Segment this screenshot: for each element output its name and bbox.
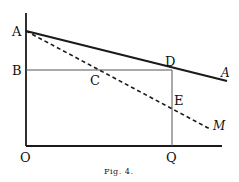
figure-caption: Fig. 4. (104, 167, 133, 176)
label-b: B (12, 63, 22, 78)
label-d: D (165, 54, 175, 69)
solid-line-aa (26, 31, 227, 81)
figure-4-diagram: A B C D E A M O Q Fig. 4. (0, 0, 239, 182)
label-q: Q (166, 150, 177, 165)
dashed-line-am (26, 31, 210, 129)
label-a-end: A (220, 66, 230, 80)
label-a: A (11, 24, 22, 39)
label-m: M (212, 119, 226, 133)
label-e: E (174, 93, 184, 108)
label-o: O (20, 150, 31, 165)
label-c: C (90, 73, 100, 88)
